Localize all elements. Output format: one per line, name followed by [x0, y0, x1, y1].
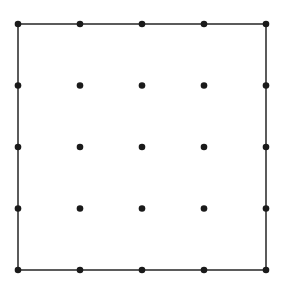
grid-dot	[139, 82, 146, 89]
grid-dot	[201, 144, 208, 151]
grid-dot	[201, 205, 208, 212]
grid-dot	[77, 82, 84, 89]
grid-dot	[139, 205, 146, 212]
grid-dot	[201, 267, 208, 274]
grid-dot	[15, 267, 22, 274]
grid-dot	[15, 21, 22, 28]
grid-dot	[263, 267, 270, 274]
grid-dot	[15, 205, 22, 212]
grid-dot	[139, 267, 146, 274]
grid-dot	[77, 267, 84, 274]
grid-dot	[201, 82, 208, 89]
grid-dot	[139, 21, 146, 28]
grid-dot	[15, 82, 22, 89]
grid-dot	[263, 21, 270, 28]
grid-dot	[263, 82, 270, 89]
grid-dot	[15, 144, 22, 151]
dot-grid-diagram	[0, 0, 285, 289]
grid-dot	[263, 144, 270, 151]
grid-dots	[15, 21, 270, 274]
grid-dot	[263, 205, 270, 212]
grid-dot	[201, 21, 208, 28]
grid-dot	[139, 144, 146, 151]
grid-dot	[77, 205, 84, 212]
grid-dot	[77, 21, 84, 28]
grid-dot	[77, 144, 84, 151]
